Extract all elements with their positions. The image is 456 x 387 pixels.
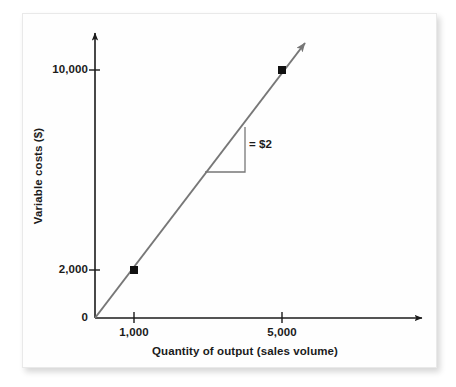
figure-screenshot: 10,000 2,000 0 1,000 5,000 Quantity of o…: [0, 0, 456, 387]
x-tick-label-5000: 5,000: [254, 326, 310, 338]
y-axis-title: Variable costs ($): [32, 111, 44, 241]
y-tick-label-10000: 10,000: [50, 63, 88, 75]
slope-annotation-label: = $2: [249, 138, 272, 150]
x-axis-title: Quantity of output (sales volume): [100, 345, 390, 357]
y-tick-label-0: 0: [50, 311, 88, 323]
x-tick-label-1000: 1,000: [106, 326, 162, 338]
y-tick-label-2000: 2,000: [50, 263, 88, 275]
